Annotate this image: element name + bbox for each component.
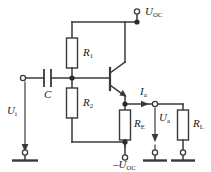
terminal-output [152,101,157,106]
terminal-input [20,75,25,80]
label-supply-negative: –UOC [113,159,136,170]
label-input-voltage: Ui [7,105,17,116]
terminal-uoc [134,9,139,14]
label-resistor-re: RE [134,118,145,129]
junction-base-node [69,75,74,80]
label-resistor-r2: R2 [83,97,93,108]
output-voltage-arrowhead [152,134,159,142]
label-output-current: Ia [140,86,147,97]
resistor-r2-body [67,88,78,118]
label-resistor-rl: RL [193,118,204,129]
junction-emitter-node [122,101,127,106]
junction-nuoc-node [122,139,127,144]
ground-input-node [22,150,27,155]
resistor-r1-body [67,38,78,68]
circuit-diagram-canvas: UOC –UOC R1 R2 C Ui Ia RE Ua RL [0,0,211,172]
label-resistor-r1: R1 [83,47,93,58]
resistor-rl-body [178,110,189,140]
resistor-re-body [120,110,131,140]
transistor-collector-lead [110,62,125,73]
circuit-schematic [0,0,211,172]
ground-load-node [180,150,185,155]
junction-uoc-node [134,19,139,24]
label-capacitor: C [44,89,51,100]
label-supply-positive: UOC [145,6,163,17]
label-output-voltage: Ua [159,112,170,123]
ground-output-node [152,150,157,155]
output-current-arrowhead [141,101,149,107]
